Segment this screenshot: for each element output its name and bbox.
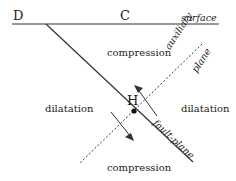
arrow-head-down xyxy=(125,133,134,141)
point-h-label: H xyxy=(127,94,138,107)
arrow-head-up xyxy=(134,85,143,93)
point-c-label: C xyxy=(120,9,130,22)
footwall-arrow xyxy=(111,112,131,137)
point-d-label: D xyxy=(13,9,23,22)
dilatation-right-label: dilatation xyxy=(181,104,229,114)
dilatation-left-label: dilatation xyxy=(45,104,93,114)
compression-top-label: compression xyxy=(107,48,171,58)
fault-diagram: D C surface compression auxiliary plane … xyxy=(0,0,236,181)
compression-bottom-label: compression xyxy=(107,163,171,173)
diagram-lines xyxy=(0,0,236,181)
hypocenter-point xyxy=(131,108,136,113)
